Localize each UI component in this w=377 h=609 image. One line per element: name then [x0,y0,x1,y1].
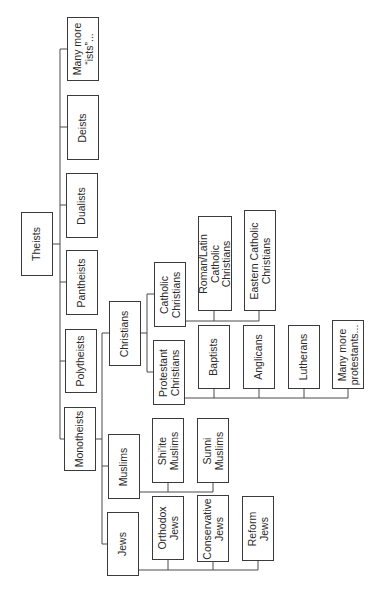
node-label: Shi'ite Muslims [157,431,180,470]
node-label: Monotheists [74,411,86,468]
node-roman-latin: Roman/Latin Catholic Christians [198,216,232,311]
node-label: Anglicans [253,334,265,380]
connector-line [185,389,348,398]
node-label: Theists [31,227,43,261]
node-label: Reform Jews [247,511,270,545]
node-label: Catholic Christians [159,271,182,318]
node-label: Baptists [208,338,220,375]
node-muslims: Muslims [108,434,140,499]
node-label: Sunni Muslims [202,431,225,470]
node-reform-jews: Reform Jews [242,496,274,561]
node-label: Polytheists [75,336,87,387]
node-anglicans: Anglicans [243,325,275,389]
node-label: Lutherans [298,334,310,381]
node-monotheists: Monotheists [64,407,96,471]
taxonomy-diagram: TheistsMany more “ists”...DeistsDualists… [0,0,377,609]
node-label: Pantheists [76,258,88,307]
connector-line [140,483,213,492]
node-pantheists: Pantheists [66,250,98,315]
node-label: Protestant Christians [158,349,181,397]
node-label: Jews [117,532,129,556]
tree-connectors [0,0,377,609]
node-label: Deists [77,113,89,142]
node-baptists: Baptists [198,325,230,389]
node-catholic: Catholic Christians [154,262,186,327]
node-polytheists: Polytheists [65,329,97,393]
node-label: Dualists [76,187,88,224]
node-protestant: Protestant Christians [153,340,185,405]
node-shiite: Shi'ite Muslims [152,418,184,483]
node-jews: Jews [107,512,139,576]
node-label: Muslims [118,447,130,486]
node-eastern-catholic: Eastern Catholic Christians [244,210,276,311]
node-deists: Deists [67,95,99,160]
node-label: Conservative Jews [202,498,225,559]
node-label: Eastern Catholic Christians [249,222,272,299]
node-label: Many more “ists”... [72,23,95,76]
node-label: Orthodox Jews [157,506,180,549]
node-many-ists: Many more “ists”... [67,17,99,81]
node-dualists: Dualists [66,173,98,238]
connector-line [186,311,259,321]
node-label: Many more protestants... [337,324,360,385]
node-sunni: Sunni Muslims [197,418,229,483]
node-many-protestants: Many more protestants... [332,320,364,389]
node-christians: Christians [109,301,141,366]
node-orthodox-jews: Orthodox Jews [152,496,184,560]
node-theists: Theists [21,212,53,276]
node-label: Roman/Latin Catholic Christians [198,234,233,294]
node-lutherans: Lutherans [288,325,320,389]
node-conservative-jews: Conservative Jews [197,495,229,562]
node-label: Christians [119,310,131,357]
